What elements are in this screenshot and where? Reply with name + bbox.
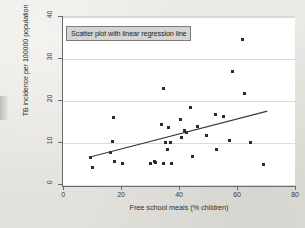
figure-container: 010203040 020406080 TB incidence per 100… bbox=[0, 0, 305, 228]
y-tick-label-30: 30 bbox=[46, 50, 53, 64]
y-tick-30 bbox=[58, 58, 62, 59]
y-tick-10 bbox=[58, 142, 62, 143]
y-tick-label-20: 20 bbox=[46, 92, 53, 106]
x-tick-80 bbox=[295, 186, 296, 190]
x-tick-label-20: 20 bbox=[111, 191, 131, 198]
x-tick-label-0: 0 bbox=[53, 191, 73, 198]
x-tick-label-80: 80 bbox=[285, 191, 305, 198]
y-tick-label-40: 40 bbox=[46, 8, 53, 22]
x-tick-60 bbox=[237, 186, 238, 190]
y-tick-label-10: 10 bbox=[46, 134, 53, 148]
x-tick-40 bbox=[179, 186, 180, 190]
plot-area bbox=[63, 16, 295, 185]
page-edge-smudge bbox=[0, 96, 9, 120]
x-tick-label-40: 40 bbox=[169, 191, 189, 198]
y-axis-line bbox=[62, 16, 63, 186]
x-tick-0 bbox=[63, 186, 64, 190]
y-tick-0 bbox=[58, 184, 62, 185]
regression-line-layer bbox=[63, 17, 295, 185]
x-tick-label-60: 60 bbox=[227, 191, 247, 198]
y-tick-20 bbox=[58, 100, 62, 101]
x-tick-20 bbox=[121, 186, 122, 190]
regression-line bbox=[89, 111, 267, 157]
y-tick-40 bbox=[58, 16, 62, 17]
y-axis-title: TB incidence per 100000 population bbox=[21, 1, 30, 121]
annotation-label: Scatter plot with linear regression line bbox=[66, 26, 191, 41]
y-tick-label-0: 0 bbox=[46, 176, 53, 190]
x-axis-title: Free school meals (% children) bbox=[63, 203, 295, 212]
